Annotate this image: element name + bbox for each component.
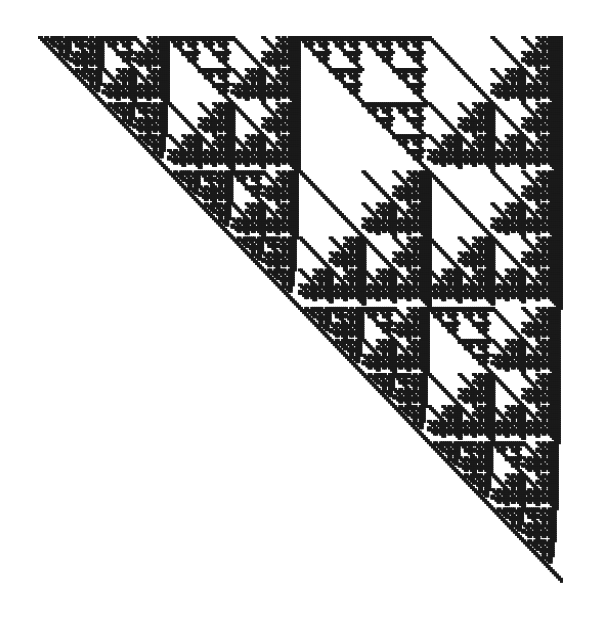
fractal-image-root [0,0,600,626]
fractal-canvas [0,0,600,626]
